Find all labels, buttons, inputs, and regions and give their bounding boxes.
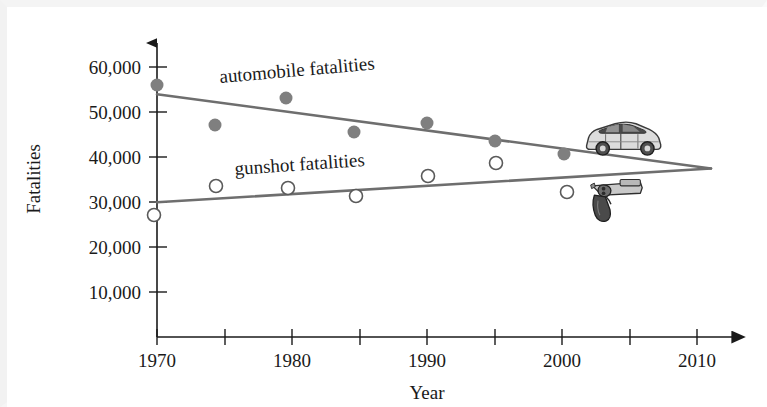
- data-point: [210, 180, 223, 193]
- data-point: [209, 119, 222, 132]
- x-tick-label-2000: 2000: [543, 350, 581, 371]
- x-tick-label-1970: 1970: [138, 350, 176, 371]
- data-point: [489, 135, 502, 148]
- x-tick-label-1980: 1980: [273, 350, 311, 371]
- x-tick-label-2010: 2010: [678, 350, 716, 371]
- data-point: [561, 186, 574, 199]
- data-point: [282, 182, 295, 195]
- data-point: [350, 190, 363, 203]
- data-point: [151, 79, 164, 92]
- data-point: [348, 126, 361, 139]
- figure-page: 60,000 50,000 40,000 30,000 20,000 10,00…: [0, 0, 767, 407]
- y-tick-label-20000: 20,000: [89, 237, 141, 258]
- y-axis-title: Fatalities: [23, 144, 44, 214]
- data-point: [148, 209, 161, 222]
- y-tick-label-40000: 40,000: [89, 147, 141, 168]
- y-tick-label-10000: 10,000: [89, 282, 141, 303]
- y-tick-label-60000: 60,000: [89, 57, 141, 78]
- data-point: [421, 117, 434, 130]
- y-tick-label-30000: 30,000: [89, 192, 141, 213]
- y-tick-label-50000: 50,000: [89, 102, 141, 123]
- fatalities-scatter-chart: 60,000 50,000 40,000 30,000 20,000 10,00…: [7, 7, 767, 407]
- x-tick-label-1990: 1990: [408, 350, 446, 371]
- x-axis-title: Year: [409, 382, 445, 403]
- data-point: [490, 157, 503, 170]
- data-point: [422, 170, 435, 183]
- data-point: [558, 148, 571, 161]
- data-point: [280, 92, 293, 105]
- chart-figure: 60,000 50,000 40,000 30,000 20,000 10,00…: [7, 7, 767, 407]
